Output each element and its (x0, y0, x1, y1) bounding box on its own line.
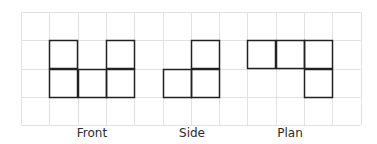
cube-face-square (248, 41, 276, 69)
cube-face-square (192, 70, 220, 98)
cube-face-square (50, 70, 78, 98)
cube-face-square (277, 41, 305, 69)
cube-face-square (107, 70, 135, 98)
cube-face-square (305, 70, 333, 98)
side-view-label: Side (179, 126, 205, 140)
grid-diagram (0, 0, 377, 144)
cube-face-square (164, 70, 192, 98)
cube-face-square (107, 41, 135, 69)
view-squares (50, 41, 333, 98)
cube-face-square (305, 41, 333, 69)
front-view-label: Front (77, 126, 107, 140)
cube-face-square (192, 41, 220, 69)
plan-view-label: Plan (277, 126, 303, 140)
cube-face-square (79, 70, 107, 98)
cube-face-square (50, 41, 78, 69)
